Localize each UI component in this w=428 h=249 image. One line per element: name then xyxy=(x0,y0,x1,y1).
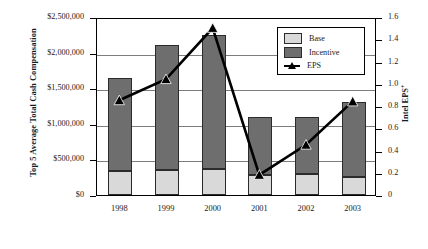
y-tick-right-mark xyxy=(376,63,382,64)
y-tick-left-label: $1,000,000 xyxy=(47,119,84,128)
y-tick-right-label: 1.2 xyxy=(388,57,398,66)
chart-legend: Base Incentive EPS xyxy=(277,27,365,75)
y-tick-left-label: $0 xyxy=(76,190,84,199)
bar-group xyxy=(202,19,226,195)
y-tick-right-mark xyxy=(376,18,382,19)
x-axis-label-2003: 2003 xyxy=(329,204,376,213)
y-tick-right-mark xyxy=(376,129,382,130)
bar-segment-incentive xyxy=(155,45,179,170)
y-tick-right-label: 1.4 xyxy=(388,34,398,43)
bar-segment-base xyxy=(108,171,132,195)
y-axis-left-ticks: $2,500,000$2,000,000$1,500,000$1,000,000… xyxy=(0,0,96,249)
bar-group xyxy=(155,19,179,195)
bar-segment-incentive xyxy=(202,35,226,169)
y-tick-right-label: 1.6 xyxy=(388,12,398,21)
x-axis-label-2000: 2000 xyxy=(189,204,236,213)
legend-item-incentive: Incentive xyxy=(284,46,364,60)
y-tick-right-mark xyxy=(376,152,382,153)
y-tick-left-label: $2,000,000 xyxy=(47,48,84,57)
y-tick-right-mark xyxy=(376,196,382,197)
bar-segment-incentive xyxy=(342,102,366,177)
legend-label-eps: EPS xyxy=(307,61,321,70)
bar-group xyxy=(248,19,272,195)
x-axis-label-2002: 2002 xyxy=(283,204,330,213)
x-axis-label-2001: 2001 xyxy=(236,204,283,213)
y-tick-right-mark xyxy=(376,174,382,175)
y-tick-right-label: 0.4 xyxy=(388,146,398,155)
bar-segment-incentive xyxy=(248,117,272,175)
base-swatch-icon xyxy=(284,33,302,44)
y-tick-left-label: $2,500,000 xyxy=(47,12,84,21)
bar-segment-base xyxy=(248,175,272,195)
legend-label-base: Base xyxy=(309,34,325,43)
bar-segment-base xyxy=(295,174,319,195)
compensation-eps-chart: Top 5 Average Total Cash Compensation In… xyxy=(0,0,428,249)
y-tick-right-label: 0 xyxy=(388,190,392,199)
y-axis-right-ticks: 1.61.41.21.00.80.60.40.20 xyxy=(376,0,428,249)
bar-group xyxy=(108,19,132,195)
y-tick-left-label: $1,500,000 xyxy=(47,83,84,92)
incentive-swatch-icon xyxy=(284,47,302,58)
bar-segment-base xyxy=(155,170,179,195)
y-tick-right-mark xyxy=(376,107,382,108)
y-tick-right-label: 0.2 xyxy=(388,168,398,177)
bar-segment-incentive xyxy=(295,117,319,174)
y-tick-left-label: $500,000 xyxy=(53,154,84,163)
x-axis-label-1998: 1998 xyxy=(96,204,143,213)
y-tick-right-label: 0.8 xyxy=(388,101,398,110)
bar-segment-base xyxy=(342,177,366,195)
y-tick-left-mark xyxy=(90,196,96,197)
bar-segment-incentive xyxy=(108,78,132,171)
x-axis-labels: 199819992000200120022003 xyxy=(96,200,376,224)
eps-marker-icon xyxy=(284,61,300,70)
y-tick-right-label: 0.6 xyxy=(388,123,398,132)
legend-item-eps: EPS xyxy=(284,59,364,73)
legend-item-base: Base xyxy=(284,32,364,46)
y-tick-right-mark xyxy=(376,85,382,86)
triangle-icon xyxy=(288,62,296,69)
bar-segment-base xyxy=(202,169,226,195)
y-tick-right-mark xyxy=(376,40,382,41)
y-tick-right-label: 1.0 xyxy=(388,79,398,88)
x-axis-label-1999: 1999 xyxy=(143,204,190,213)
legend-label-incentive: Incentive xyxy=(309,48,339,57)
